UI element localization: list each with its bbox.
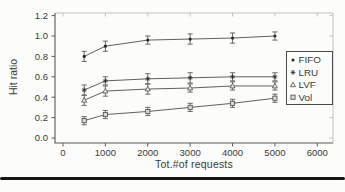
square-marker <box>82 119 86 123</box>
series-line <box>84 36 275 56</box>
asterisk-marker <box>230 74 235 79</box>
dot-marker <box>83 55 86 58</box>
chart-figure: 01000200030004000500060000.00.20.40.60.8… <box>0 0 345 192</box>
legend-label: LVF <box>299 79 316 90</box>
square-marker <box>146 109 150 113</box>
y-tick-label: 0.4 <box>35 92 48 103</box>
dot-marker <box>273 34 276 37</box>
dot-marker <box>146 38 149 41</box>
y-tick-label: 0.2 <box>35 112 48 123</box>
y-tick-label: 1.2 <box>35 10 48 21</box>
x-tick-label: 0 <box>60 147 65 158</box>
square-marker <box>291 95 295 99</box>
series-fifo <box>82 32 278 62</box>
dot-marker <box>104 45 107 48</box>
x-tick-label: 6000 <box>307 147 328 158</box>
series-lru <box>82 73 278 95</box>
asterisk-marker <box>188 75 193 80</box>
y-tick-label: 1.0 <box>35 30 48 41</box>
asterisk-marker <box>82 88 87 93</box>
dot-marker <box>231 36 234 39</box>
square-marker <box>230 101 234 105</box>
asterisk-marker <box>273 74 278 79</box>
series-line <box>84 86 275 100</box>
series-vol <box>82 94 278 125</box>
legend-label: FIFO <box>299 54 322 65</box>
x-axis-label: Tot.#of requests <box>55 158 333 170</box>
page-divider-rule <box>0 177 345 180</box>
legend: FIFOLRULVFVol <box>287 52 333 105</box>
x-tick-label: 1000 <box>95 147 116 158</box>
y-tick-label: 0.0 <box>35 132 48 143</box>
x-tick-label: 5000 <box>264 147 285 158</box>
x-tick-label: 4000 <box>222 147 243 158</box>
legend-label: LRU <box>299 67 319 78</box>
dot-marker <box>291 58 294 61</box>
series-line <box>84 98 275 120</box>
legend-label: Vol <box>299 92 313 103</box>
square-marker <box>273 96 277 100</box>
asterisk-marker <box>291 70 296 75</box>
asterisk-marker <box>145 76 150 81</box>
x-tick-label: 3000 <box>180 147 201 158</box>
square-marker <box>103 112 107 116</box>
asterisk-marker <box>103 78 108 83</box>
y-tick-label: 0.6 <box>35 71 48 82</box>
y-tick-label: 0.8 <box>35 51 48 62</box>
dot-marker <box>189 37 192 40</box>
square-marker <box>188 105 192 109</box>
x-tick-label: 2000 <box>137 147 158 158</box>
y-axis-label: Hit ratio <box>7 59 19 95</box>
